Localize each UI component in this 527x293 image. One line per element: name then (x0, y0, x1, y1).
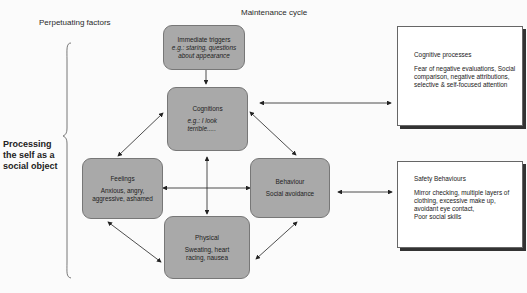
box-desc: Mirror checking, multiple layers of clot… (414, 189, 516, 213)
box-cognitive-processes: Cognitive processes Fear of negative eva… (397, 26, 523, 126)
side-label-line2: the self as a (3, 150, 58, 161)
box-title: Cognitive processes (414, 51, 516, 59)
side-label: Processing the self as a social object (3, 139, 58, 172)
node-immediate-triggers: Immediate triggers e.g.: staring, questi… (163, 25, 245, 70)
node-desc: e.g.: I look terrible..... (188, 117, 228, 133)
node-title: Immediate triggers (178, 36, 231, 44)
node-title: Cognitions (192, 105, 222, 113)
brace-icon (63, 43, 71, 278)
side-label-line3: social object (3, 161, 58, 172)
node-desc: e.g.: staring, questions about appearanc… (168, 44, 240, 60)
box-desc: Fear of negative evaluations, Social com… (414, 65, 516, 89)
perpetuating-factors-header: Perpetuating factors (39, 18, 111, 27)
box-title: Safety Behaviours (414, 175, 516, 183)
node-behaviour: Behaviour Social avoidance (250, 158, 330, 218)
node-title: Physical (195, 234, 219, 242)
box-safety-behaviours: Safety Behaviours Mirror checking, multi… (397, 161, 523, 248)
node-title: Feelings (110, 175, 134, 183)
side-label-line1: Processing (3, 139, 58, 150)
node-physical: Physical Sweating, heart racing, nausea (164, 216, 250, 279)
node-title: Behaviour (276, 178, 305, 186)
node-feelings: Feelings Anxious, angry, aggressive, ash… (82, 158, 163, 219)
node-desc: Sweating, heart racing, nausea (177, 246, 237, 262)
maintenance-cycle-header: Maintenance cycle (241, 8, 307, 17)
box-desc-extra: Poor social skills (414, 213, 516, 221)
node-cognitions: Cognitions e.g.: I look terrible..... (167, 87, 248, 151)
node-desc: Anxious, angry, aggressive, ashamed (87, 187, 158, 203)
node-desc: Social avoidance (266, 190, 314, 198)
